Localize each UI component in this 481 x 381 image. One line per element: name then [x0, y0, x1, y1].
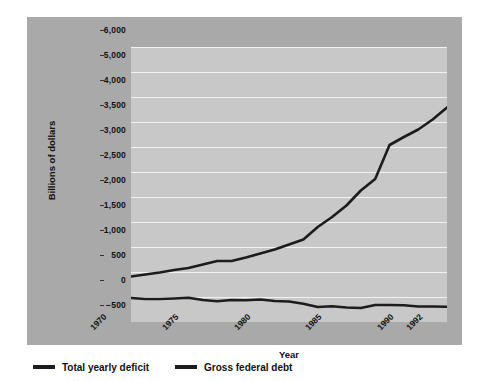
chart-panel: Billions of dollars 6,0005,0004,0003,500…	[27, 17, 462, 345]
legend-label: Total yearly deficit	[62, 362, 149, 373]
y-axis-tick-label: 1,500	[66, 200, 126, 210]
legend-item-total-yearly-deficit: Total yearly deficit	[33, 362, 149, 373]
y-axis-tick-mark	[100, 180, 104, 181]
y-axis-tick-mark	[100, 55, 104, 56]
plot-area	[131, 47, 447, 322]
y-axis-tick-mark	[100, 155, 104, 156]
x-axis-tick-label: 1970	[88, 312, 108, 332]
legend-swatch-icon	[33, 365, 55, 369]
y-axis-tick-mark	[100, 80, 104, 81]
series-line	[131, 298, 447, 308]
y-axis-tick-mark	[100, 205, 104, 206]
chart-legend: Total yearly deficit Gross federal debt	[27, 357, 462, 377]
legend-item-gross-federal-debt: Gross federal debt	[175, 362, 292, 373]
y-axis-tick-label: 5,000	[66, 50, 126, 60]
figure-container: Billions of dollars 6,0005,0004,0003,500…	[0, 0, 481, 381]
y-axis-tick-label: 500	[66, 250, 126, 260]
y-axis-tick-mark	[100, 130, 104, 131]
y-axis-tick-label: 2,000	[66, 175, 126, 185]
legend-swatch-icon	[175, 365, 197, 369]
y-axis-tick-mark	[100, 305, 104, 306]
y-axis-tick-label: 6,000	[66, 25, 126, 35]
y-axis-tick-label: 3,000	[66, 125, 126, 135]
y-axis-tick-label: 4,000	[66, 75, 126, 85]
y-axis-tick-mark	[100, 105, 104, 106]
y-axis-tick-mark	[100, 255, 104, 256]
y-axis-tick-mark	[100, 30, 104, 31]
y-axis-tick-label: 1,000	[66, 225, 126, 235]
y-axis-tick-mark	[100, 230, 104, 231]
y-axis-title: Billions of dollars	[46, 101, 57, 221]
y-axis-tick-label: 3,500	[66, 100, 126, 110]
y-axis-tick-mark	[100, 280, 104, 281]
series-lines	[131, 47, 447, 322]
y-axis-tick-label: 0	[66, 275, 126, 285]
y-axis-tick-label: 2,500	[66, 150, 126, 160]
y-axis-tick-label: −500	[66, 300, 126, 310]
series-line	[131, 108, 447, 277]
legend-label: Gross federal debt	[204, 362, 292, 373]
